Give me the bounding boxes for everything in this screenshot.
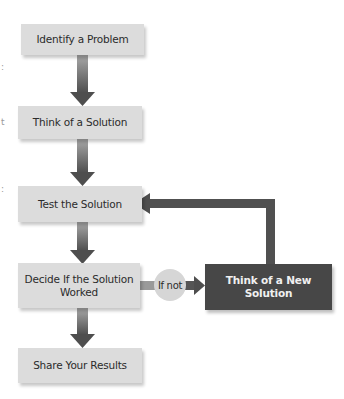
step-share-results: Share Your Results bbox=[18, 348, 142, 383]
arrow-right-icon bbox=[185, 276, 205, 295]
arrow-down-icon bbox=[70, 55, 95, 106]
arrow-down-icon bbox=[70, 308, 95, 348]
arrow-down-icon bbox=[70, 222, 95, 264]
arrow-down-icon bbox=[70, 139, 95, 186]
step-label: Share Your Results bbox=[33, 359, 127, 372]
condition-label: If not bbox=[158, 280, 182, 291]
step-decide-worked: Decide If the Solution Worked bbox=[18, 263, 140, 308]
step-label: Think of a Solution bbox=[33, 116, 127, 129]
step-label: Decide If the Solution Worked bbox=[22, 273, 136, 299]
step-label: Test the Solution bbox=[38, 198, 122, 211]
step-label: Think of a New Solution bbox=[225, 274, 312, 300]
step-think-solution: Think of a Solution bbox=[18, 106, 142, 139]
step-new-solution: Think of a New Solution bbox=[205, 264, 332, 310]
step-test-solution: Test the Solution bbox=[18, 186, 142, 222]
step-label: Identify a Problem bbox=[36, 33, 128, 46]
step-identify-problem: Identify a Problem bbox=[21, 24, 144, 55]
if-not-condition: If not bbox=[154, 269, 186, 301]
arrow-left-icon bbox=[134, 193, 275, 264]
